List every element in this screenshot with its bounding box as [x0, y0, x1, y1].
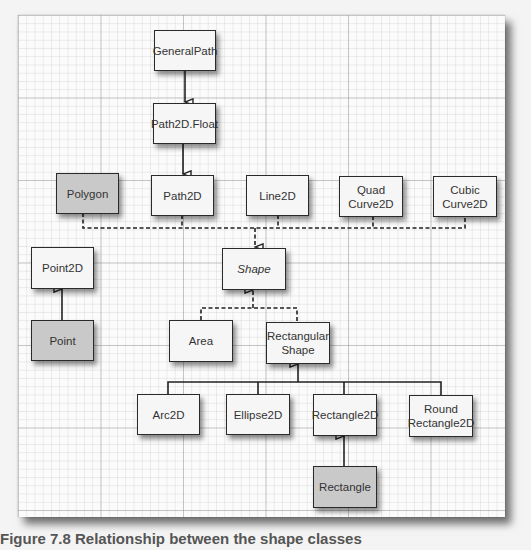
class-label: Rectangle2D — [312, 408, 378, 422]
class-box-line2d: Line2D — [246, 175, 309, 216]
class-label: Arc2D — [153, 408, 185, 422]
class-box-point2d: Point2D — [31, 247, 94, 289]
class-label-line2: Shape — [281, 344, 314, 356]
class-label-line1: Rectangular — [267, 330, 329, 342]
class-label-line1: Quad — [357, 184, 385, 196]
class-box-arc2d: Arc2D — [137, 394, 200, 435]
class-label: RectangularShape — [267, 329, 329, 357]
class-label-line1: Round — [424, 403, 458, 415]
class-label: Polygon — [67, 187, 109, 201]
interface-label: Shape — [237, 262, 270, 276]
class-box-rectangle2d: Rectangle2D — [313, 394, 377, 436]
class-box-path2d: Path2D — [151, 175, 214, 216]
class-label: Rectangle — [319, 480, 371, 494]
class-label: Point — [49, 334, 75, 348]
figure-caption: Figure 7.8 Relationship between the shap… — [0, 530, 531, 550]
class-label-line2: Curve2D — [442, 198, 487, 210]
class-label-line1: Cubic — [450, 184, 479, 196]
class-label: Path2D — [163, 189, 201, 203]
class-box-rectangle: Rectangle — [313, 466, 377, 508]
class-box-ellipse2d: Ellipse2D — [226, 394, 290, 435]
class-label: QuadCurve2D — [348, 183, 393, 211]
interface-box-shape: Shape — [222, 248, 286, 290]
class-box-polygon: Polygon — [56, 173, 119, 214]
class-box-generalpath: GeneralPath — [154, 30, 216, 71]
class-box-path2d-float: Path2D.Float — [153, 103, 216, 144]
class-box-roundrectangle2d: RoundRectangle2D — [409, 395, 473, 437]
class-label-line2: Rectangle2D — [408, 417, 474, 429]
class-label: Path2D.Float — [151, 117, 218, 131]
class-label: Line2D — [259, 189, 295, 203]
class-label: GeneralPath — [153, 44, 218, 58]
class-label: Point2D — [42, 261, 83, 275]
class-box-area: Area — [169, 320, 233, 362]
class-label: Ellipse2D — [234, 408, 283, 422]
class-box-rectangularshape: RectangularShape — [266, 322, 330, 364]
class-box-cubiccurve2d: CubicCurve2D — [433, 176, 497, 217]
class-box-quadcurve2d: QuadCurve2D — [339, 176, 403, 217]
class-label-line2: Curve2D — [348, 198, 393, 210]
class-label: Area — [189, 334, 213, 348]
class-label: RoundRectangle2D — [408, 402, 474, 430]
class-box-point: Point — [31, 320, 94, 361]
class-label: CubicCurve2D — [442, 183, 487, 211]
